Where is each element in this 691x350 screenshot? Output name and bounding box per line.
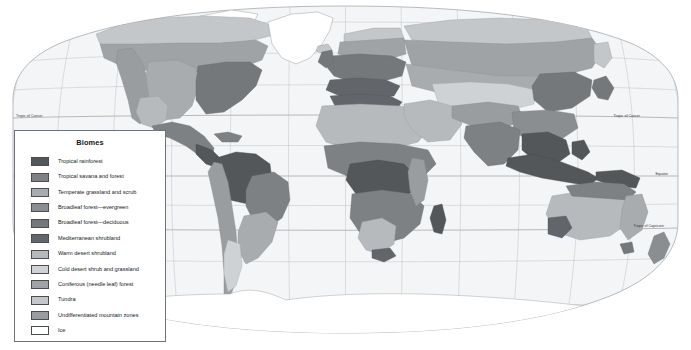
legend-item: Ice [15, 323, 165, 338]
legend-item-label: Undifferentiated mountain zones [58, 313, 138, 319]
legend-item-label: Broadleaf forest—evergreen [58, 205, 128, 211]
legend-swatch [31, 296, 49, 305]
legend-swatch [31, 219, 49, 228]
legend-item: Tundra [15, 293, 165, 308]
lat-label-tropic-of-cancer-left: Tropic of Cancer [16, 114, 43, 118]
legend-swatch [31, 188, 49, 197]
legend-swatch [31, 203, 49, 212]
legend-item-label: Tropical rainforest [58, 159, 103, 165]
legend-item-label: Broadleaf forest—deciduous [58, 220, 129, 226]
legend-item-label: Warm desert shrubland [58, 251, 116, 257]
legend-swatch [31, 265, 49, 274]
legend-item-label: Coniferous (needle leaf) forest [58, 282, 133, 288]
legend-item: Mediterranean shrubland [15, 231, 165, 246]
lat-label-equator-right: Equator [655, 172, 668, 176]
legend-swatch [31, 311, 49, 320]
legend-swatch [31, 326, 49, 335]
legend-swatch [31, 250, 49, 259]
legend-rows: Tropical rainforestTropical savana and f… [15, 154, 165, 339]
legend-swatch [31, 280, 49, 289]
legend-item-label: Mediterranean shrubland [58, 236, 120, 242]
legend-item: Tropical savana and forest [15, 169, 165, 184]
legend-item: Undifferentiated mountain zones [15, 308, 165, 323]
biomes-legend: Biomes Tropical rainforestTropical savan… [14, 130, 166, 342]
legend-item: Warm desert shrubland [15, 246, 165, 261]
legend-item: Cold desert shrub and grassland [15, 262, 165, 277]
legend-swatch [31, 234, 49, 243]
biome-map-figure: Tropic of Cancer Tropic of Cancer Equato… [0, 0, 691, 350]
legend-item: Broadleaf forest—deciduous [15, 216, 165, 231]
legend-swatch [31, 173, 49, 182]
lat-label-tropic-of-capricorn-right: Tropic of Capricorn [634, 224, 664, 228]
legend-item: Tropical rainforest [15, 154, 165, 169]
legend-item: Broadleaf forest—evergreen [15, 200, 165, 215]
legend-item-label: Ice [58, 328, 65, 334]
legend-item-label: Tundra [58, 297, 76, 303]
legend-item: Coniferous (needle leaf) forest [15, 277, 165, 292]
legend-title: Biomes [15, 138, 165, 147]
legend-item-label: Temperate grassland and scrub [58, 190, 136, 196]
lat-label-tropic-of-cancer-right: Tropic of Cancer [614, 114, 641, 118]
legend-swatch [31, 157, 49, 166]
legend-item: Temperate grassland and scrub [15, 185, 165, 200]
legend-item-label: Tropical savana and forest [58, 174, 124, 180]
legend-item-label: Cold desert shrub and grassland [58, 267, 139, 273]
